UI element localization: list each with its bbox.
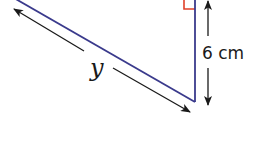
- triangle-diagram: y 6 cm: [0, 0, 254, 152]
- hypotenuse-label: y: [89, 54, 104, 82]
- y-dimension-arrow-upper: [14, 9, 84, 51]
- height-label: 6 cm: [202, 43, 244, 63]
- right-angle-marker: [184, 0, 195, 9]
- y-dimension-arrow-lower: [113, 68, 190, 112]
- hypotenuse-edge: [14, 0, 195, 102]
